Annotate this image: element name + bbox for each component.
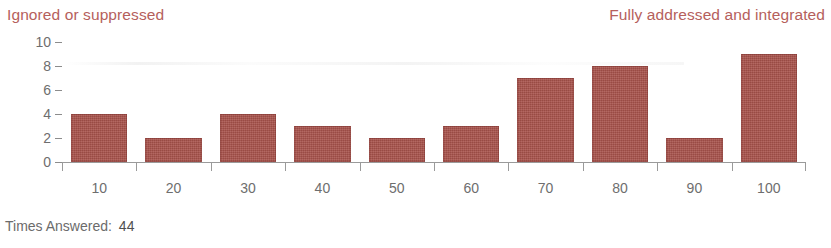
times-answered-value: 44 xyxy=(119,218,135,234)
x-axis-ticks xyxy=(62,163,806,171)
bar[interactable] xyxy=(145,138,202,162)
x-axis-tick-label: 100 xyxy=(732,180,806,196)
bar[interactable] xyxy=(369,138,426,162)
x-axis-tick-label: 60 xyxy=(434,180,508,196)
bar-slot xyxy=(136,42,210,162)
y-axis-tick-label: 0 xyxy=(43,155,51,169)
x-axis-tick-mark xyxy=(657,163,658,171)
scale-label-low: Ignored or suppressed xyxy=(7,6,164,24)
y-axis-tick-label: 8 xyxy=(43,59,51,73)
bar-slot xyxy=(434,42,508,162)
x-axis-tick-label: 30 xyxy=(211,180,285,196)
y-axis-tick-2: 2 xyxy=(43,131,62,145)
x-axis-tick-mark xyxy=(360,163,361,171)
y-axis-tick-label: 4 xyxy=(43,107,51,121)
y-axis-tick-8: 8 xyxy=(43,59,62,73)
scale-endpoint-labels: Ignored or suppressed Fully addressed an… xyxy=(0,0,831,34)
x-axis-tick-mark xyxy=(732,163,733,171)
bar-slot xyxy=(360,42,434,162)
bar-series xyxy=(62,42,806,162)
y-axis-tick-label: 2 xyxy=(43,131,51,145)
x-axis-tick-mark xyxy=(136,163,137,171)
y-axis-tick-mark xyxy=(55,138,62,139)
y-axis-tick-mark xyxy=(55,42,62,43)
times-answered: Times Answered:44 xyxy=(5,218,134,234)
x-axis-tick-mark xyxy=(508,163,509,171)
x-axis-tick-label: 90 xyxy=(657,180,731,196)
bar[interactable] xyxy=(220,114,277,162)
x-axis-tick-mark xyxy=(62,163,63,171)
x-axis-tick-mark xyxy=(583,163,584,171)
bar[interactable] xyxy=(71,114,128,162)
times-answered-label: Times Answered: xyxy=(5,218,112,234)
scale-label-high: Fully addressed and integrated xyxy=(609,6,825,24)
y-axis-tick-4: 4 xyxy=(43,107,62,121)
y-axis: 0246810 xyxy=(0,34,62,200)
y-axis-tick-mark xyxy=(55,114,62,115)
bar[interactable] xyxy=(741,54,798,162)
bar[interactable] xyxy=(666,138,723,162)
y-axis-tick-0: 0 xyxy=(43,155,62,169)
y-axis-tick-mark xyxy=(55,90,62,91)
y-axis-tick-mark xyxy=(55,162,62,163)
bar[interactable] xyxy=(517,78,574,162)
x-axis-tick-label: 70 xyxy=(508,180,582,196)
x-axis-tick-mark xyxy=(285,163,286,171)
bar-slot xyxy=(583,42,657,162)
y-axis-tick-mark xyxy=(55,66,62,67)
bar-slot xyxy=(285,42,359,162)
bar[interactable] xyxy=(443,126,500,162)
x-axis-tick-mark xyxy=(434,163,435,171)
bar-slot xyxy=(62,42,136,162)
x-axis-tick-label: 20 xyxy=(136,180,210,196)
bar[interactable] xyxy=(592,66,649,162)
y-axis-tick-6: 6 xyxy=(43,83,62,97)
bar[interactable] xyxy=(294,126,351,162)
bar-slot xyxy=(211,42,285,162)
x-axis-tick-label: 10 xyxy=(62,180,136,196)
bar-slot xyxy=(657,42,731,162)
x-axis-tick-label: 50 xyxy=(360,180,434,196)
x-axis-tick-mark xyxy=(211,163,212,171)
x-axis-tick-label: 80 xyxy=(583,180,657,196)
x-axis-tick-label: 40 xyxy=(285,180,359,196)
bar-chart: 0246810 102030405060708090100 xyxy=(0,34,831,200)
plot-area: 102030405060708090100 xyxy=(62,34,806,200)
x-axis-labels: 102030405060708090100 xyxy=(62,174,806,196)
y-axis-tick-label: 6 xyxy=(43,83,51,97)
bar-slot xyxy=(732,42,806,162)
y-axis-tick-10: 10 xyxy=(35,35,62,49)
bar-slot xyxy=(508,42,582,162)
y-axis-tick-label: 10 xyxy=(35,35,51,49)
